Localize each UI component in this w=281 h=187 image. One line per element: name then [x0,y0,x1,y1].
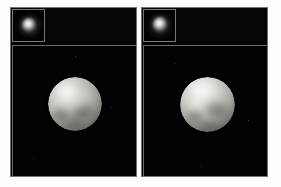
field-speckle [110,107,111,108]
left-observation-panel[interactable] [10,7,137,177]
left-reconstructed-globe-view[interactable] [12,45,137,177]
right-observation-panel[interactable] [141,7,268,177]
right-raw-image-inset[interactable] [143,9,176,42]
fuzzy-blob-halo [149,14,172,37]
fuzzy-bright-blob [22,18,36,32]
field-speckle [201,166,202,167]
sphere-base-shading [180,77,235,132]
left-raw-image-inset[interactable] [12,9,45,42]
field-speckle [34,158,35,159]
figure-root [0,0,281,187]
fuzzy-bright-blob [153,17,167,32]
fuzzy-blob-halo [18,15,41,37]
reconstructed-sphere[interactable] [180,77,235,132]
sphere-base-shading [48,77,102,131]
reconstructed-sphere[interactable] [48,77,102,131]
field-speckle [248,120,249,121]
field-speckle [75,56,76,57]
field-speckle [174,63,175,64]
right-reconstructed-globe-view[interactable] [143,45,268,177]
